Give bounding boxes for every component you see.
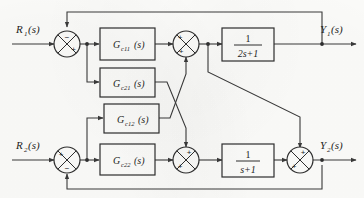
sign-r2-bottom: − (65, 164, 70, 173)
block-gc11[interactable]: G c11 (s) (100, 28, 155, 60)
plant2-denominator: s+1 (240, 164, 256, 175)
sum-junction-r1: − + (54, 31, 80, 57)
label-y1: Y 1 (s) (320, 23, 343, 38)
block-gc21-subscript: c21 (121, 84, 130, 91)
block-gc11-suffix: (s) (134, 39, 145, 51)
sum-junction-mid-bottom: + + (173, 147, 199, 173)
sign-midbottom-top: + (187, 148, 192, 157)
block-gc22-subscript: c22 (121, 161, 131, 168)
label-y1-subscript: 1 (327, 30, 331, 38)
label-r2-suffix: (s) (28, 139, 40, 152)
block-plant1[interactable]: 1 2s+1 (222, 28, 274, 61)
label-y2-suffix: (s) (331, 139, 343, 152)
sum-junction-r2: + − (54, 147, 80, 173)
sign-midtop-bottom: + (179, 47, 184, 56)
wire-gc21-cross-to-sum-bottom (155, 82, 186, 147)
block-gc12-label: G (117, 114, 124, 125)
plant2-numerator: 1 (246, 149, 251, 160)
branch-node-y1 (320, 42, 324, 46)
sum-junction-mid-top: + + (173, 31, 199, 57)
block-diagram-canvas: − + + + + − + + + + (0, 0, 364, 198)
block-gc21-suffix: (s) (134, 78, 145, 90)
label-y1-suffix: (s) (331, 23, 343, 36)
label-r1-base: R (15, 23, 23, 35)
plant1-numerator: 1 (246, 33, 251, 44)
block-diagram-page: − + + + + − + + + + (0, 0, 364, 198)
sign-r1-top: − (65, 33, 70, 42)
wire-e1-to-gc21 (87, 44, 99, 82)
sign-midbottom-left: + (178, 162, 183, 171)
sign-out2-left: + (292, 162, 297, 171)
block-gc22-suffix: (s) (134, 155, 145, 167)
block-gc12[interactable]: G c12 (s) (104, 104, 159, 133)
block-gc22-label: G (113, 155, 120, 166)
block-gc21[interactable]: G c21 (s) (100, 68, 155, 97)
sign-out2-top: + (301, 148, 306, 157)
wire-gc12-cross-to-sum-top (159, 57, 186, 118)
label-r1: R 1 (s) (15, 23, 40, 38)
label-r2-base: R (15, 139, 23, 151)
label-r1-suffix: (s) (28, 23, 40, 36)
block-gc22[interactable]: G c22 (s) (100, 144, 155, 175)
label-y2: Y 2 (s) (320, 139, 343, 154)
block-gc12-subscript: c12 (125, 120, 135, 127)
branch-node-y2 (320, 158, 324, 162)
label-r1-subscript: 1 (24, 30, 28, 38)
block-gc12-suffix: (s) (138, 114, 149, 126)
sign-r2-left: + (59, 150, 64, 159)
block-gc11-subscript: c11 (121, 45, 130, 52)
block-gc11-label: G (113, 39, 120, 50)
block-gc21-label: G (113, 78, 120, 89)
sign-midtop-left: + (178, 33, 183, 42)
label-r2: R 2 (s) (15, 139, 40, 154)
sign-r1-right: + (71, 45, 76, 54)
plant1-denominator: 2s+1 (238, 48, 259, 59)
sum-junction-out2: + + (287, 147, 313, 173)
block-plant2[interactable]: 1 s+1 (222, 144, 274, 177)
